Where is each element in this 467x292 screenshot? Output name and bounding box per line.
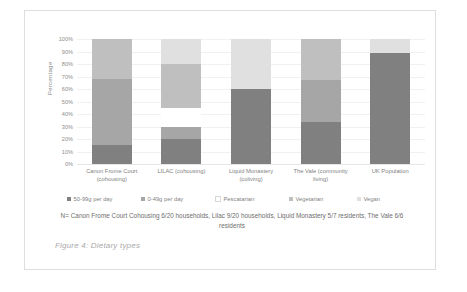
bar-segment[interactable] <box>161 139 201 164</box>
stacked-bar[interactable] <box>231 39 271 164</box>
x-axis-label: Canon Frome Court(cohousing) <box>77 167 147 184</box>
x-axis-label-line: living) <box>286 175 356 183</box>
y-axis-tick: 40% <box>62 111 73 117</box>
y-axis-tick: 0% <box>65 161 73 167</box>
chart-legend: 50-99g per day0-49g per dayPescatarianVe… <box>33 196 429 210</box>
bar-segment[interactable] <box>301 122 341 165</box>
bar-segment[interactable] <box>370 39 410 53</box>
stacked-bar[interactable] <box>92 39 132 164</box>
chart-plot-area <box>77 39 425 164</box>
bar-segment[interactable] <box>92 79 132 145</box>
x-axis-label-line: UK Population <box>355 167 425 175</box>
legend-label: Vegan <box>364 196 380 202</box>
bar-segment[interactable] <box>370 53 410 164</box>
bar-segment[interactable] <box>161 64 201 108</box>
x-axis-label: LILAC (cohousing) <box>147 167 217 175</box>
y-axis-tick: 30% <box>62 124 73 130</box>
x-axis-label-line: (cohousing) <box>77 175 147 183</box>
legend-label: 0-49g per day <box>148 196 184 202</box>
bar-segment[interactable] <box>161 127 201 140</box>
figure-container: Percentage 0%10%20%30%40%50%60%70%80%90%… <box>24 10 436 270</box>
chart-plot-wrapper: Percentage 0%10%20%30%40%50%60%70%80%90%… <box>25 15 437 205</box>
bar-segment[interactable] <box>92 145 132 164</box>
stacked-bar[interactable] <box>370 39 410 164</box>
y-axis-tick: 80% <box>62 61 73 67</box>
bar-segment[interactable] <box>301 39 341 80</box>
legend-swatch-icon <box>215 196 221 202</box>
y-axis-tick: 60% <box>62 86 73 92</box>
x-axis-label-line: LILAC (cohousing) <box>147 167 217 175</box>
y-axis-tick: 20% <box>62 136 73 142</box>
legend-item[interactable]: Vegan <box>357 196 380 202</box>
legend-swatch-icon <box>357 197 361 201</box>
x-axis-label-line: Liquid Monastery <box>216 167 286 175</box>
bar-segment[interactable] <box>92 39 132 79</box>
figure-caption: Figure 4: Dietary types <box>55 241 385 250</box>
gridline <box>77 164 425 165</box>
legend-item[interactable]: Pescatarian <box>215 196 254 202</box>
legend-swatch-icon <box>141 197 145 201</box>
x-axis-label-line: (coliving) <box>216 175 286 183</box>
y-axis-tick: 70% <box>62 74 73 80</box>
x-axis-label: Liquid Monastery(coliving) <box>216 167 286 184</box>
bar-group[interactable] <box>77 39 147 164</box>
bar-segment[interactable] <box>161 108 201 127</box>
bar-group[interactable] <box>355 39 425 164</box>
bar-group[interactable] <box>216 39 286 164</box>
bar-segment[interactable] <box>231 89 271 164</box>
y-axis-tick: 50% <box>62 99 73 105</box>
x-axis-label: UK Population <box>355 167 425 175</box>
legend-label: 50-99g per day <box>74 196 113 202</box>
legend-item[interactable]: 0-49g per day <box>141 196 183 202</box>
sample-size-note: N= Canon Frome Court Cohousing 6/20 hous… <box>47 211 417 230</box>
stacked-bar[interactable] <box>161 39 201 164</box>
legend-swatch-icon <box>289 197 293 201</box>
y-axis-tick-labels: 0%10%20%30%40%50%60%70%80%90%100% <box>47 39 75 164</box>
bar-group[interactable] <box>286 39 356 164</box>
x-axis-label-line: Canon Frome Court <box>77 167 147 175</box>
bar-segment[interactable] <box>301 80 341 121</box>
bar-segment[interactable] <box>231 39 271 89</box>
stacked-bar[interactable] <box>301 39 341 164</box>
legend-swatch-icon <box>67 197 71 201</box>
x-axis-label: The Vale (communityliving) <box>286 167 356 184</box>
y-axis-tick: 100% <box>59 36 73 42</box>
x-axis-label-line: The Vale (community <box>286 167 356 175</box>
x-axis-category-labels: Canon Frome Court(cohousing)LILAC (cohou… <box>77 167 425 197</box>
legend-item[interactable]: Vegetarian <box>289 196 323 202</box>
legend-label: Vegetarian <box>296 196 324 202</box>
y-axis-tick: 10% <box>62 149 73 155</box>
legend-label: Pescatarian <box>224 196 255 202</box>
legend-item[interactable]: 50-99g per day <box>67 196 113 202</box>
bar-group[interactable] <box>147 39 217 164</box>
y-axis-tick: 90% <box>62 49 73 55</box>
bar-segment[interactable] <box>161 39 201 64</box>
